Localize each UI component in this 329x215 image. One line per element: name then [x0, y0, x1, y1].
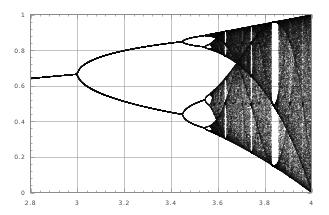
- y-tick-label: 0.2: [14, 153, 25, 160]
- bifurcation-figure: 10.80.60.40.20 2.833.23.43.63.84: [0, 0, 329, 215]
- x-tick-label: 3.8: [250, 199, 280, 206]
- x-tick-label: 3: [62, 199, 92, 206]
- y-tick-label: 0.6: [14, 82, 25, 89]
- x-tick-label: 3.4: [156, 199, 186, 206]
- x-tick-label: 2.8: [16, 199, 46, 206]
- y-tick-label: 0: [21, 189, 25, 196]
- x-tick-label: 3.6: [203, 199, 233, 206]
- y-tick-label: 0.8: [14, 47, 25, 54]
- bifurcation-plot-canvas: [0, 0, 329, 215]
- x-tick-label: 3.2: [109, 199, 139, 206]
- x-tick-label: 4: [297, 199, 327, 206]
- y-tick-label: 1: [21, 11, 25, 18]
- y-tick-label: 0.4: [14, 118, 25, 125]
